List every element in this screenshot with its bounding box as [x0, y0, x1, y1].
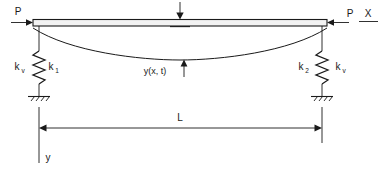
right-axial-load-label: P	[347, 8, 354, 19]
left-ground-hatch-4	[46, 97, 50, 102]
span-length-label: L	[177, 112, 183, 123]
span-left-arrowhead	[39, 125, 47, 132]
y-axis-label: y	[46, 152, 51, 163]
beam-diagram-figure: P P X	[0, 0, 381, 171]
span-right-arrowhead	[315, 125, 323, 132]
left-kv-subscript: v	[21, 67, 25, 74]
right-spring-kv-label: k v	[336, 61, 347, 74]
right-ground-hatch-4	[329, 97, 333, 102]
left-k1-subscript: 1	[55, 67, 59, 74]
left-ground-hatch-2	[36, 97, 40, 102]
right-ground-hatch-2	[319, 97, 323, 102]
beam-element	[33, 20, 327, 27]
right-ground-support	[311, 97, 333, 102]
left-ground-hatch-1	[31, 97, 35, 102]
y-axis-group: y	[39, 143, 51, 163]
right-k2-base: k	[299, 61, 305, 72]
right-spring-coil	[316, 51, 328, 84]
span-dimension-group: L	[39, 107, 322, 143]
deflection-label: y(x, t)	[144, 66, 167, 76]
center-load-arrowhead	[176, 13, 183, 20]
left-ground-support	[28, 97, 50, 102]
right-k2-subscript: 2	[305, 67, 309, 74]
diagram-canvas: P P X	[0, 0, 381, 171]
left-axial-load-label: P	[15, 6, 22, 17]
deflected-shape-curve	[33, 28, 327, 60]
left-spring-coil	[33, 51, 45, 84]
x-axis-group: X	[359, 8, 378, 22]
deflection-arrowhead	[181, 60, 188, 67]
right-kv-base: k	[336, 61, 342, 72]
left-spring-assembly: k v k 1	[15, 26, 60, 101]
left-kv-base: k	[15, 61, 21, 72]
right-kv-subscript: v	[342, 67, 346, 74]
left-axial-arrowhead	[26, 19, 33, 26]
left-spring-kv-label: k v	[15, 61, 26, 74]
x-axis-label: X	[365, 8, 372, 19]
right-spring-k2-label: k 2	[299, 61, 310, 74]
left-k1-base: k	[49, 61, 55, 72]
right-ground-hatch-1	[314, 97, 318, 102]
left-ground-hatch-3	[41, 97, 45, 102]
left-axial-load-group: P	[11, 6, 33, 26]
right-ground-hatch-3	[324, 97, 328, 102]
right-axial-load-group: P	[327, 8, 354, 26]
left-spring-k1-label: k 1	[49, 61, 60, 74]
right-axial-arrowhead	[327, 19, 334, 26]
deflection-annotation: y(x, t)	[144, 60, 188, 78]
right-spring-assembly: k 2 k v	[299, 26, 347, 101]
